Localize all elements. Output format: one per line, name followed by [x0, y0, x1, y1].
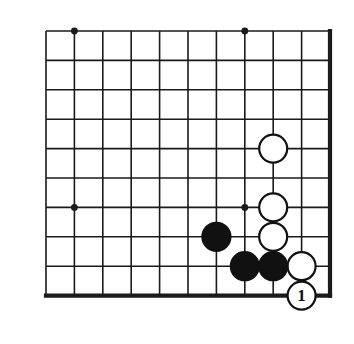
star-point [241, 28, 248, 35]
white-stone-a [259, 135, 287, 163]
black-stone [231, 252, 259, 280]
white-stone-move-1: 1 [288, 282, 316, 310]
go-board-canvas: 1 [0, 0, 354, 344]
white-stone [259, 135, 287, 163]
star-point [241, 204, 248, 211]
white-stone [288, 252, 316, 280]
white-stone-d [288, 252, 316, 280]
black-stone [202, 223, 230, 251]
black-stone-b [231, 252, 259, 280]
black-stone-c [259, 252, 287, 280]
stone-move-number: 1 [297, 286, 306, 305]
star-point [71, 28, 78, 35]
black-stone [259, 252, 287, 280]
star-point [71, 204, 78, 211]
white-stone [259, 223, 287, 251]
white-stone-b [259, 193, 287, 221]
black-stone-a [202, 223, 230, 251]
go-board-diagram: 1 [0, 0, 354, 344]
white-stone-c [259, 223, 287, 251]
white-stone [259, 193, 287, 221]
